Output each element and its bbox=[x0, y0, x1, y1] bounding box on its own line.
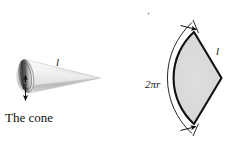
arc-tick-bottom bbox=[193, 124, 199, 137]
sector-shape bbox=[174, 32, 222, 124]
cone-caption: The cone bbox=[5, 110, 53, 125]
cone-slant-label: l bbox=[56, 56, 59, 68]
sector-slant-label: l bbox=[216, 45, 219, 57]
cone-radius-label: r bbox=[23, 80, 27, 91]
sector-arc-label: 2πr bbox=[145, 78, 161, 90]
sector-drawing: 2πr l bbox=[145, 20, 222, 136]
cone-drawing: l r The cone bbox=[5, 56, 101, 125]
figure-canvas: l r The cone 2πr l bbox=[0, 0, 238, 164]
scan-speck bbox=[148, 13, 150, 15]
cone-unrolled-sector-figure: l r The cone 2πr l bbox=[0, 0, 238, 164]
